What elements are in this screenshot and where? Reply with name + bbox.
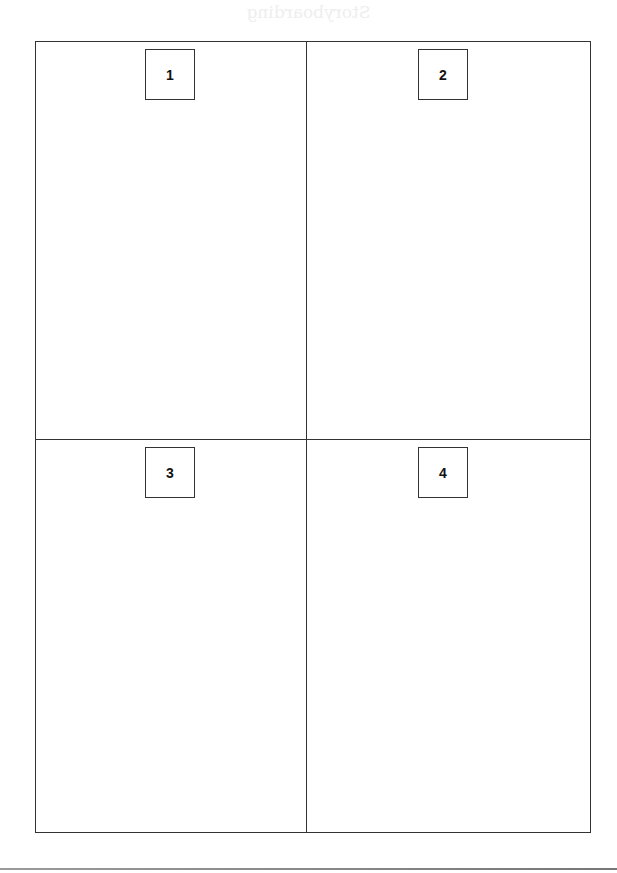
vertical-divider	[306, 42, 307, 832]
panel-3: 3	[36, 440, 306, 833]
panel-number-box-4: 4	[418, 447, 468, 498]
panel-4: 4	[307, 440, 591, 833]
horizontal-divider	[36, 439, 590, 440]
panel-number-box-2: 2	[418, 49, 468, 100]
storyboard-grid: 1 2 3 4	[35, 41, 591, 833]
page-bottom-edge	[0, 868, 617, 870]
panel-number-box-1: 1	[145, 49, 195, 100]
panel-1: 1	[36, 42, 306, 439]
panel-2: 2	[307, 42, 591, 439]
panel-number-box-3: 3	[145, 447, 195, 498]
bleed-through-title: Storyboarding	[0, 2, 617, 22]
